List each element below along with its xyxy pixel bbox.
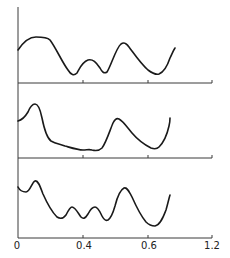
trace-1 (18, 37, 175, 75)
x-tick-labels: 0 0.4 0.6 1.2 (14, 240, 220, 251)
x-tick-label-2: 0.6 (141, 240, 157, 251)
trace-3 (18, 181, 170, 226)
panel-bottom (18, 181, 212, 238)
x-tick-label-1: 0.4 (76, 240, 92, 251)
x-tick-label-0: 0 (14, 240, 20, 251)
stacked-line-chart: 0 0.4 0.6 1.2 (0, 0, 230, 258)
x-tick-label-3: 1.2 (204, 240, 220, 251)
panel-middle (18, 104, 212, 158)
trace-2 (18, 104, 170, 151)
panel-top (18, 37, 212, 83)
